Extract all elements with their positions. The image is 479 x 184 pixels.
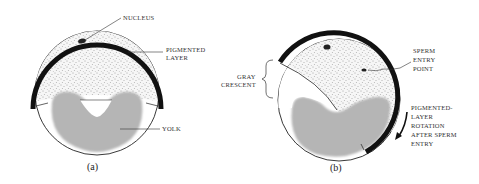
gray-crescent-brace bbox=[262, 60, 273, 98]
label-rotation-4: AFTER SPERM bbox=[411, 131, 457, 139]
label-sperm-2: ENTRY bbox=[413, 56, 435, 64]
label-rotation-1: PIGMENTED- bbox=[411, 104, 453, 112]
label-pigmented-layer-1: PIGMENTED bbox=[166, 46, 205, 54]
label-rotation-2: LAYER bbox=[411, 113, 433, 121]
panel-a-egg bbox=[30, 18, 164, 155]
pigmented-layer-a bbox=[30, 20, 164, 102]
label-gray-crescent-1: GRAY bbox=[237, 73, 256, 81]
label-yolk: YOLK bbox=[162, 125, 181, 133]
label-sperm-1: SPERM bbox=[413, 47, 435, 55]
caption-a: (a) bbox=[87, 161, 98, 172]
panel-b-egg bbox=[260, 20, 420, 161]
label-nucleus: NUCLEUS bbox=[123, 14, 154, 22]
label-rotation-3: ROTATION bbox=[411, 122, 445, 130]
egg-rotation-diagram bbox=[0, 0, 479, 184]
label-rotation-5: ENTRY bbox=[411, 140, 433, 148]
caption-b: (b) bbox=[330, 162, 342, 173]
label-sperm-3: POINT bbox=[413, 65, 433, 73]
nucleus-b bbox=[324, 44, 331, 49]
label-gray-crescent-2: CRESCENT bbox=[221, 81, 256, 89]
rotation-arrow-icon bbox=[399, 112, 407, 136]
sperm-entry-marker bbox=[361, 68, 366, 71]
label-pigmented-layer-2: LAYER bbox=[166, 54, 188, 62]
